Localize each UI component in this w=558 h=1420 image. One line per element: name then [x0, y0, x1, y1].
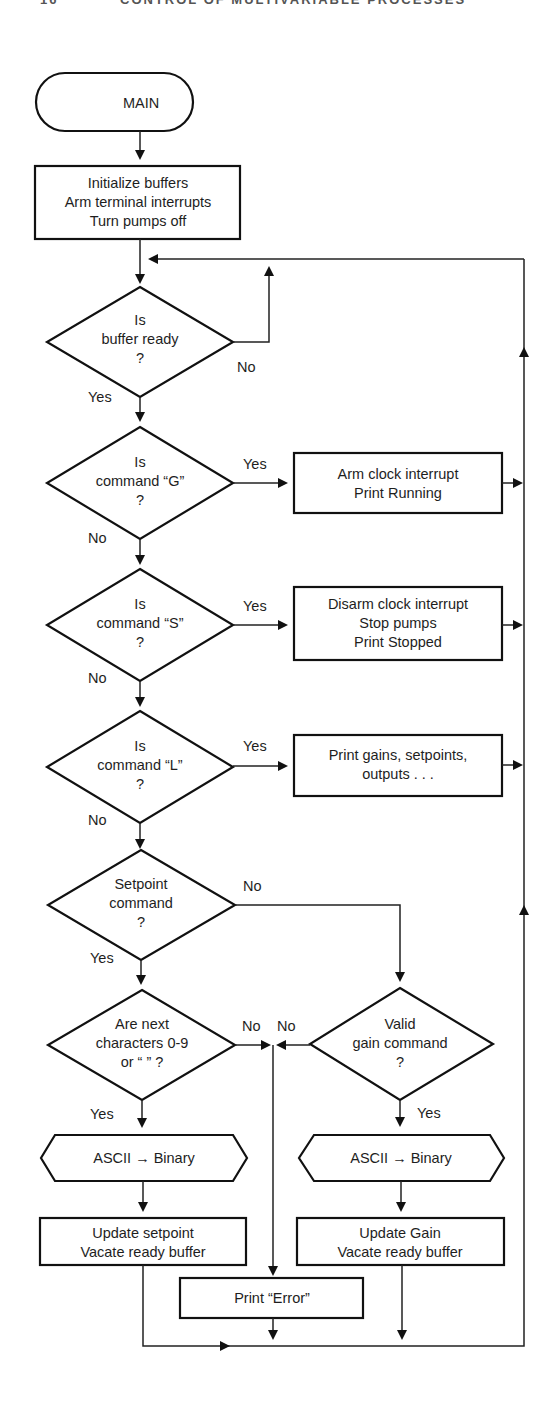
arrow-icon — [135, 555, 145, 565]
cmd-g-action-line-1: Arm clock interrupt — [338, 466, 459, 482]
arrow-icon — [137, 1118, 147, 1128]
print-error-box: Print “Error” — [180, 1278, 363, 1318]
decision-valid-gain: Valid gain command ? — [310, 988, 493, 1100]
arrow-icon — [138, 1202, 148, 1212]
cmd-s-action-line-3: Print Stopped — [354, 634, 442, 650]
arrow-icon — [220, 1341, 230, 1351]
valid-gain-line-1: Valid — [384, 1016, 415, 1032]
start-label: MAIN — [123, 95, 159, 111]
update-gain-line-1: Update Gain — [359, 1225, 440, 1241]
arrow-icon — [276, 1040, 286, 1050]
cmd-s-action-box: Disarm clock interrupt Stop pumps Print … — [294, 587, 502, 660]
valid-gain-line-3: ? — [396, 1054, 404, 1070]
cmd-l-action-box: Print gains, setpoints, outputs . . . — [294, 735, 502, 796]
buffer-ready-yes-label: Yes — [88, 389, 112, 405]
cmd-g-no-label: No — [88, 530, 107, 546]
start-terminal: MAIN — [36, 73, 193, 131]
next-chars-no-label: No — [242, 1018, 261, 1034]
cmd-g-action-box: Arm clock interrupt Print Running — [294, 453, 502, 513]
arrow-icon — [395, 1117, 405, 1127]
cmd-g-line-3: ? — [136, 492, 144, 508]
print-error-label: Print “Error” — [234, 1290, 310, 1306]
update-setpoint-line-1: Update setpoint — [92, 1225, 194, 1241]
ascii-binary-right: ASCII → Binary — [299, 1135, 504, 1181]
init-process-box: Initialize buffers Arm terminal interrup… — [35, 166, 240, 239]
cmd-s-no-label: No — [88, 670, 107, 686]
init-line-2: Arm terminal interrupts — [65, 194, 212, 210]
cmd-s-yes-label: Yes — [243, 598, 267, 614]
arrow-icon — [135, 412, 145, 422]
arrow-icon — [135, 839, 145, 849]
arrow-icon — [396, 1202, 406, 1212]
decision-command-g: Is command “G” ? — [47, 427, 233, 539]
page-header: 16 CONTROL OF MULTIVARIABLE PROCESSES — [40, 0, 466, 7]
update-gain-box: Update Gain Vacate ready buffer — [297, 1218, 504, 1265]
buffer-ready-line-3: ? — [136, 350, 144, 366]
cmd-g-line-1: Is — [134, 454, 145, 470]
next-chars-line-3: or “ ” ? — [121, 1054, 164, 1070]
cmd-g-yes-label: Yes — [243, 456, 267, 472]
buffer-ready-no-label: No — [237, 359, 256, 375]
init-line-3: Turn pumps off — [90, 213, 188, 229]
cmd-s-line-1: Is — [134, 596, 145, 612]
cmd-g-line-2: command “G” — [96, 473, 185, 489]
valid-gain-yes-label: Yes — [417, 1105, 441, 1121]
cmd-s-action-line-1: Disarm clock interrupt — [328, 596, 468, 612]
cmd-l-line-2: command “L” — [97, 757, 183, 773]
arrow-icon — [513, 760, 523, 770]
arrow-icon — [135, 274, 145, 284]
arrow-icon — [395, 972, 405, 982]
setpoint-cmd-line-3: ? — [137, 914, 145, 930]
cmd-s-action-line-2: Stop pumps — [359, 615, 436, 631]
arrow-icon — [397, 1330, 407, 1340]
cmd-l-line-1: Is — [134, 738, 145, 754]
decision-setpoint-command: Setpoint command ? — [48, 850, 235, 960]
ascii-left-label: ASCII → Binary — [93, 1150, 195, 1166]
setpoint-cmd-yes-label: Yes — [90, 950, 114, 966]
arrow-icon — [261, 1040, 271, 1050]
page-number: 16 — [40, 0, 58, 7]
arrow-icon — [513, 478, 523, 488]
running-title: CONTROL OF MULTIVARIABLE PROCESSES — [120, 0, 466, 7]
ascii-right-label: ASCII → Binary — [350, 1150, 452, 1166]
update-setpoint-line-2: Vacate ready buffer — [80, 1244, 205, 1260]
arrow-icon — [148, 254, 158, 264]
setpoint-cmd-no-label: No — [243, 878, 262, 894]
cmd-s-line-2: command “S” — [96, 615, 183, 631]
arrow-icon — [135, 697, 145, 707]
arrow-icon — [264, 266, 274, 276]
cmd-l-yes-label: Yes — [243, 738, 267, 754]
cmd-l-no-label: No — [88, 812, 107, 828]
arrow-icon — [278, 761, 288, 771]
ascii-binary-left: ASCII → Binary — [41, 1135, 247, 1181]
cmd-l-action-line-1: Print gains, setpoints, — [329, 747, 468, 763]
arrow-icon — [513, 620, 523, 630]
buffer-ready-line-1: Is — [134, 312, 145, 328]
valid-gain-line-2: gain command — [352, 1035, 447, 1051]
next-chars-line-1: Are next — [115, 1016, 169, 1032]
flowchart-diagram: 16 CONTROL OF MULTIVARIABLE PROCESSES MA… — [0, 0, 558, 1420]
update-setpoint-box: Update setpoint Vacate ready buffer — [40, 1218, 246, 1265]
decision-command-l: Is command “L” ? — [47, 711, 233, 823]
decision-command-s: Is command “S” ? — [47, 569, 233, 681]
update-gain-line-2: Vacate ready buffer — [337, 1244, 462, 1260]
setpoint-cmd-line-1: Setpoint — [114, 876, 167, 892]
next-chars-yes-label: Yes — [90, 1106, 114, 1122]
cmd-g-action-line-2: Print Running — [354, 485, 442, 501]
cmd-l-line-3: ? — [136, 776, 144, 792]
cmd-s-line-3: ? — [136, 634, 144, 650]
setpoint-cmd-line-2: command — [109, 895, 173, 911]
arrow-icon — [136, 975, 146, 985]
arrow-icon — [278, 620, 288, 630]
decision-next-characters: Are next characters 0-9 or “ ” ? — [48, 990, 235, 1100]
arrow-icon — [135, 150, 145, 160]
valid-gain-no-label: No — [277, 1018, 296, 1034]
next-chars-line-2: characters 0-9 — [96, 1035, 189, 1051]
cmd-l-action-line-2: outputs . . . — [362, 766, 434, 782]
buffer-ready-line-2: buffer ready — [101, 331, 179, 347]
init-line-1: Initialize buffers — [88, 175, 188, 191]
arrow-icon — [268, 1266, 278, 1276]
arrow-icon — [519, 905, 529, 915]
arrow-icon — [278, 478, 288, 488]
decision-buffer-ready: Is buffer ready ? — [47, 287, 233, 397]
